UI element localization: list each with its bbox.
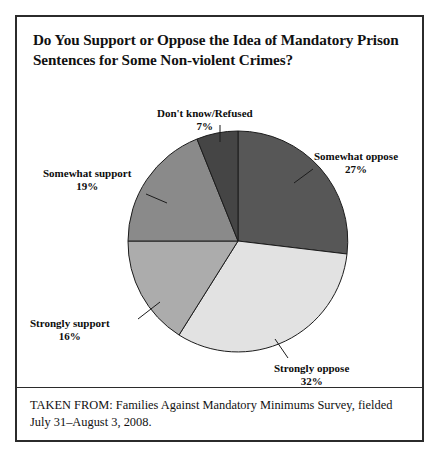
source-note: TAKEN FROM: Families Against Mandatory M… xyxy=(30,397,410,431)
pie-label-strongly-support: Strongly support 16% xyxy=(30,317,110,343)
pie-label-name: Don't know/Refused xyxy=(157,107,253,120)
pie-label-percent: 16% xyxy=(30,330,110,343)
pie-label-name: Somewhat support xyxy=(43,167,131,180)
pie-label-name: Strongly support xyxy=(30,317,110,330)
pie-label-somewhat-oppose: Somewhat oppose 27% xyxy=(314,150,398,176)
source-divider xyxy=(17,387,422,388)
pie-label-name: Somewhat oppose xyxy=(314,150,398,163)
pie-label-somewhat-support: Somewhat support 19% xyxy=(43,167,131,193)
pie-chart: Don't know/Refused 7% Somewhat oppose 27… xyxy=(17,17,422,387)
pie-label-name: Strongly oppose xyxy=(274,362,349,375)
pie-label-percent: 27% xyxy=(314,163,398,176)
pie-label-percent: 19% xyxy=(43,180,131,193)
pie-label-percent: 7% xyxy=(157,120,253,133)
pie-label-strongly-oppose: Strongly oppose 32% xyxy=(274,362,349,388)
figure-frame: Do You Support or Oppose the Idea of Man… xyxy=(15,15,424,442)
pie-label-dont-know-refused: Don't know/Refused 7% xyxy=(157,107,253,133)
